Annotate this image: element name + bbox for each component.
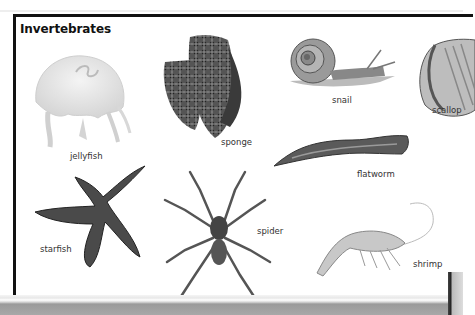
sponge-illustration — [160, 32, 260, 142]
snail-label: snail — [332, 95, 352, 105]
flatworm-label: flatworm — [357, 169, 395, 179]
starfish-label: starfish — [40, 244, 72, 254]
shrimp-label: shrimp — [413, 259, 442, 269]
scallop-label: scallop — [432, 105, 462, 115]
page-bottom-edge — [0, 295, 463, 315]
page-title: Invertebrates — [20, 22, 111, 36]
flatworm-illustration — [272, 130, 412, 170]
starfish-illustration — [35, 162, 160, 272]
snail-illustration — [285, 36, 405, 91]
sponge-label: sponge — [221, 137, 252, 147]
jellyfish-label: jellyfish — [70, 151, 103, 161]
top-margin — [0, 0, 463, 14]
jellyfish-illustration — [28, 52, 138, 152]
page-edge-tab — [448, 272, 463, 315]
spider-label: spider — [257, 226, 283, 236]
